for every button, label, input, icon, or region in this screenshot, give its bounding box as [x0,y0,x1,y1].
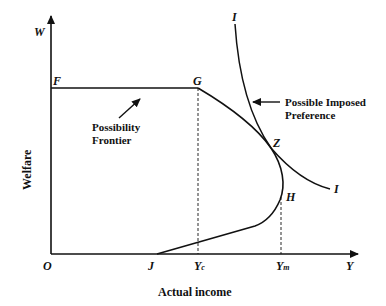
point-z-label: Z [273,136,280,151]
origin-label: O [43,259,52,274]
preference-annotation-line2: Preference [285,109,366,122]
curve-i-bottom-label: I [334,182,339,197]
frontier-annotation-line1: Possibility [92,121,140,134]
frontier-pointer-arrow [119,99,140,118]
ym-tick-label: Ym [276,259,290,274]
x-axis-title: Actual income [158,286,232,299]
y-axis-title: Welfare [21,150,34,190]
possibility-frontier-curve [157,88,283,254]
y-axis-letter: W [34,25,45,40]
point-h-label: H [286,190,295,205]
yc-tick-label: Yc [194,259,205,274]
point-j-label: J [148,259,154,274]
point-g-label: G [193,74,202,89]
preference-annotation-line1: Possible Imposed [285,96,366,109]
x-axis-letter: Y [346,259,353,274]
preference-annotation: Possible Imposed Preference [285,96,366,122]
curve-i-top-label: I [232,10,237,25]
yc-subscript: c [201,263,205,272]
frontier-annotation-line2: Frontier [92,134,140,147]
frontier-annotation: Possibility Frontier [92,121,140,147]
point-f-label: F [53,74,61,89]
ym-subscript: m [283,263,289,272]
welfare-income-diagram [0,0,386,306]
